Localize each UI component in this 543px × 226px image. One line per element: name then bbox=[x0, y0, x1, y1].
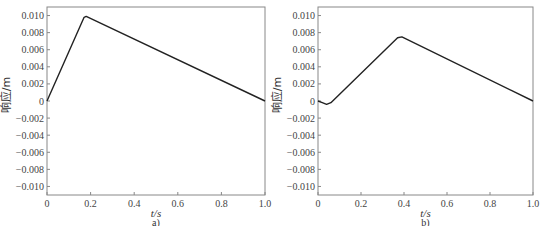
y-tick-label: −0.008 bbox=[287, 164, 315, 175]
panel-caption: b) bbox=[421, 217, 429, 226]
response-line bbox=[318, 37, 533, 105]
x-tick-label: 0.8 bbox=[215, 198, 228, 209]
y-tick-label: 0 bbox=[39, 96, 44, 107]
chart-panel-b: 0.0100.0080.0060.0040.0020−0.002−0.004−0… bbox=[270, 7, 539, 226]
y-tick-label: 0.004 bbox=[293, 61, 316, 72]
x-tick-label: 1.0 bbox=[527, 198, 540, 209]
y-tick-label: 0.010 bbox=[22, 10, 45, 21]
x-tick-label: 0 bbox=[45, 198, 50, 209]
y-tick-label: 0.006 bbox=[293, 44, 316, 55]
response-line bbox=[47, 16, 265, 101]
x-tick-label: 0.2 bbox=[84, 198, 97, 209]
y-tick-label: 0.008 bbox=[293, 27, 316, 38]
plot-frame bbox=[47, 7, 265, 195]
chart-panel-a: 0.0100.0080.0060.0040.0020−0.002−0.004−0… bbox=[0, 7, 271, 226]
y-tick-label: 0.006 bbox=[22, 44, 45, 55]
y-tick-label: −0.002 bbox=[16, 113, 44, 124]
panel-caption: a) bbox=[152, 217, 160, 226]
y-tick-label: −0.006 bbox=[287, 147, 315, 158]
plot-frame bbox=[318, 7, 533, 195]
figure: 0.0100.0080.0060.0040.0020−0.002−0.004−0… bbox=[0, 0, 543, 226]
y-tick-label: −0.008 bbox=[16, 164, 44, 175]
y-tick-label: −0.004 bbox=[287, 130, 315, 141]
x-tick-label: 0.8 bbox=[484, 198, 497, 209]
x-tick-label: 0.4 bbox=[128, 198, 141, 209]
x-tick-label: 0.2 bbox=[355, 198, 368, 209]
y-axis-label: 响应/m bbox=[270, 77, 284, 113]
y-tick-label: 0.004 bbox=[22, 61, 45, 72]
x-tick-label: 0.4 bbox=[398, 198, 411, 209]
y-tick-label: −0.010 bbox=[287, 181, 315, 192]
y-tick-label: −0.004 bbox=[16, 130, 44, 141]
x-tick-label: 0 bbox=[316, 198, 321, 209]
y-tick-label: −0.010 bbox=[16, 181, 44, 192]
y-tick-label: 0 bbox=[310, 96, 315, 107]
y-tick-label: 0.010 bbox=[293, 10, 316, 21]
y-axis-label: 响应/m bbox=[0, 77, 13, 113]
y-tick-label: 0.008 bbox=[22, 27, 45, 38]
x-tick-label: 0.6 bbox=[441, 198, 454, 209]
y-tick-label: −0.002 bbox=[287, 113, 315, 124]
y-tick-label: −0.006 bbox=[16, 147, 44, 158]
x-tick-label: 0.6 bbox=[172, 198, 185, 209]
y-tick-label: 0.002 bbox=[293, 78, 316, 89]
y-tick-label: 0.002 bbox=[22, 78, 45, 89]
x-tick-label: 1.0 bbox=[259, 198, 272, 209]
